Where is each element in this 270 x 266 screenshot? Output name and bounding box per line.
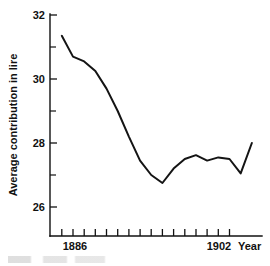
y-tick-label-26: 26	[33, 201, 45, 213]
x-axis-title: Year	[238, 240, 262, 252]
data-series-line	[62, 36, 252, 183]
y-tick-label-28: 28	[33, 137, 45, 149]
line-chart-svg: 32 30 28 26 Average contribution in lire…	[0, 0, 270, 266]
x-tick-label-1886: 1886	[63, 240, 87, 252]
x-tick-label-1902: 1902	[207, 240, 231, 252]
caption-smudge	[8, 256, 128, 263]
y-tick-label-32: 32	[33, 9, 45, 21]
y-axis-title: Average contribution in lire	[7, 54, 19, 197]
chart-figure: 32 30 28 26 Average contribution in lire…	[0, 0, 270, 266]
y-tick-label-30: 30	[33, 73, 45, 85]
